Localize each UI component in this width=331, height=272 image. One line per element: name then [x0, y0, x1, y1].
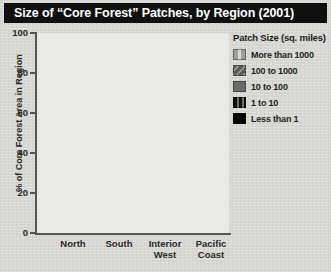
y-tick-label-100: 100	[0, 28, 28, 38]
legend-item-10-to-100[interactable]: 10 to 100	[233, 79, 329, 94]
solid-gray-swatch-icon	[233, 81, 246, 92]
x-tick-label-pacific-coast: Pacific Coast	[182, 238, 240, 260]
chart-legend: Patch Size (sq. miles) More than 1000 10…	[233, 32, 329, 127]
narrow-vertical-stripe-swatch-icon	[233, 97, 246, 108]
solid-black-swatch-icon	[233, 113, 246, 124]
y-tick-label-20: 20	[0, 188, 28, 198]
x-tick-label-pacific-coast-line1: Pacific	[182, 238, 240, 249]
legend-title: Patch Size (sq. miles)	[233, 32, 329, 43]
diagonal-hatch-swatch-icon	[233, 65, 246, 76]
y-tick-label-80: 80	[0, 68, 28, 78]
chart-figure: Size of “Core Forest” Patches, by Region…	[0, 0, 331, 272]
legend-label-more-than-1000: More than 1000	[251, 50, 314, 60]
x-axis-line	[35, 233, 231, 235]
chart-title-bar: Size of “Core Forest” Patches, by Region…	[4, 3, 327, 23]
legend-label-less-than-1: Less than 1	[251, 114, 298, 124]
wide-vertical-stripe-swatch-icon	[233, 49, 246, 60]
plot-area	[36, 33, 229, 233]
x-tick-label-pacific-coast-line2: Coast	[182, 249, 240, 260]
legend-label-10-to-100: 10 to 100	[251, 82, 288, 92]
chart-title: Size of “Core Forest” Patches, by Region…	[14, 4, 294, 23]
legend-label-1-to-10: 1 to 10	[251, 98, 278, 108]
y-tick-label-40: 40	[0, 148, 28, 158]
legend-label-100-to-1000: 100 to 1000	[251, 66, 297, 76]
legend-item-more-than-1000[interactable]: More than 1000	[233, 47, 329, 62]
y-tick-label-60: 60	[0, 108, 28, 118]
legend-item-1-to-10[interactable]: 1 to 10	[233, 95, 329, 110]
y-axis-line	[35, 32, 37, 234]
legend-item-100-to-1000[interactable]: 100 to 1000	[233, 63, 329, 78]
legend-item-less-than-1[interactable]: Less than 1	[233, 111, 329, 126]
y-tick-label-0: 0	[0, 228, 28, 238]
